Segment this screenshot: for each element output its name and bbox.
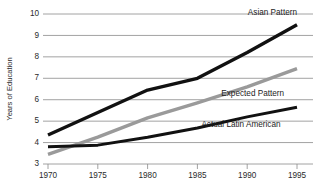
xtick-label-1985: 1985: [188, 171, 207, 180]
line-chart: 345678910 197019751980198519901995 Years…: [0, 0, 330, 189]
ytick-label-3: 3: [34, 159, 39, 168]
series-label-expected-pattern: Expected Pattern: [221, 89, 284, 98]
xtick-label-1990: 1990: [238, 171, 257, 180]
series-label-actual-latin-american: Actual Latin American: [201, 120, 281, 129]
xtick-label-1995: 1995: [288, 171, 307, 180]
y-axis-title: Years of Education: [5, 57, 14, 120]
ytick-label-6: 6: [34, 95, 39, 104]
series-line-asian-pattern: [48, 25, 297, 135]
xtick-labels-group: 197019751980198519901995: [39, 171, 307, 180]
ytick-label-5: 5: [34, 116, 39, 125]
chart-canvas: 345678910 197019751980198519901995 Years…: [0, 0, 330, 189]
xtick-label-1970: 1970: [39, 171, 58, 180]
xtick-label-1980: 1980: [138, 171, 157, 180]
series-line-expected-pattern: [48, 69, 297, 155]
ytick-label-9: 9: [34, 31, 39, 40]
ytick-label-4: 4: [34, 138, 39, 147]
ytick-label-7: 7: [34, 73, 39, 82]
xtick-label-1975: 1975: [89, 171, 108, 180]
y-axis-title-group: Years of Education: [5, 57, 14, 120]
ytick-label-10: 10: [30, 9, 40, 18]
ytick-label-8: 8: [34, 52, 39, 61]
xtick-marks-group: [48, 164, 297, 169]
ytick-labels-group: 345678910: [30, 9, 40, 168]
series-label-asian-pattern: Asian Pattern: [248, 8, 298, 17]
